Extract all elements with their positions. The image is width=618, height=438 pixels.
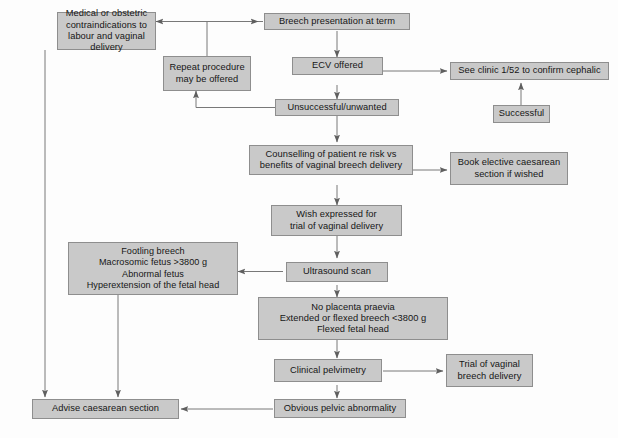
node-contraindications[interactable]: Medical or obstetric contraindications t… (57, 12, 156, 50)
node-ecv-offered[interactable]: ECV offered (292, 57, 383, 75)
node-no-placenta[interactable]: No placenta praevia Extended or flexed b… (258, 297, 448, 340)
node-counselling[interactable]: Counselling of patient re risk vs benefi… (249, 145, 413, 175)
edge-repeat-to-breech (207, 22, 258, 57)
node-see-clinic[interactable]: See clinic 1/52 to confirm cephalic (450, 62, 609, 80)
node-successful[interactable]: Successful (493, 105, 550, 123)
node-obvious-pelvic[interactable]: Obvious pelvic abnormality (274, 399, 406, 418)
node-advise-caesarean[interactable]: Advise caesarean section (32, 399, 179, 419)
node-breech-presentation[interactable]: Breech presentation at term (264, 13, 410, 30)
edge-unsuccessful-to-repeat (196, 91, 275, 108)
node-footling[interactable]: Footling breech Macrosomic fetus >3800 g… (68, 242, 238, 295)
node-ultrasound[interactable]: Ultrasound scan (286, 262, 388, 282)
node-pelvimetry[interactable]: Clinical pelvimetry (274, 359, 382, 382)
node-trial-vaginal[interactable]: Trial of vaginal breech delivery (446, 354, 533, 387)
node-repeat-procedure[interactable]: Repeat procedure may be offered (163, 56, 251, 91)
node-wish-expressed[interactable]: Wish expressed for trial of vaginal deli… (271, 205, 402, 236)
flowchart-canvas: Medical or obstetric contraindications t… (0, 0, 618, 438)
node-unsuccessful[interactable]: Unsuccessful/unwanted (275, 99, 399, 116)
node-book-elective[interactable]: Book elective caesarean section if wishe… (450, 152, 568, 185)
